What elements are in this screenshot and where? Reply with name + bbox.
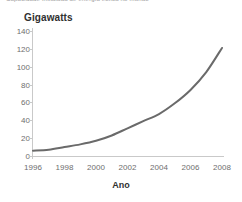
- x-tick-label: 2004: [142, 163, 176, 172]
- x-axis-line: [32, 156, 224, 157]
- y-tick-mark: [29, 156, 32, 157]
- y-tick-label: 80: [0, 80, 30, 89]
- x-tick-label: 2008: [205, 163, 239, 172]
- y-tick-mark: [29, 102, 32, 103]
- x-tick-label: 1998: [48, 163, 82, 172]
- x-tick-label: 2006: [174, 163, 208, 172]
- y-tick-mark: [29, 67, 32, 68]
- y-tick-label: 140: [0, 27, 30, 36]
- y-axis-title: Gigawatts: [24, 12, 73, 23]
- x-tick-label: 2002: [111, 163, 145, 172]
- x-axis-title: Ano: [0, 180, 242, 190]
- cropped-caption: Capacidade instalada de energia eólica n…: [6, 0, 220, 3]
- plot-area: [33, 31, 222, 156]
- y-tick-label: 20: [0, 134, 30, 143]
- y-tick-mark: [29, 31, 32, 32]
- series-line-svg: [33, 31, 222, 156]
- y-tick-label: 0: [0, 152, 30, 161]
- y-tick-label: 40: [0, 116, 30, 125]
- series-line-path: [33, 48, 222, 151]
- y-tick-label: 100: [0, 62, 30, 71]
- y-tick-label: 120: [0, 44, 30, 53]
- wind-capacity-chart: Capacidade instalada de energia eólica n…: [0, 0, 242, 202]
- y-tick-mark: [29, 49, 32, 50]
- y-tick-label: 60: [0, 98, 30, 107]
- y-tick-mark: [29, 138, 32, 139]
- y-tick-mark: [29, 120, 32, 121]
- x-tick-label: 1996: [16, 163, 50, 172]
- y-tick-mark: [29, 85, 32, 86]
- x-tick-label: 2000: [79, 163, 113, 172]
